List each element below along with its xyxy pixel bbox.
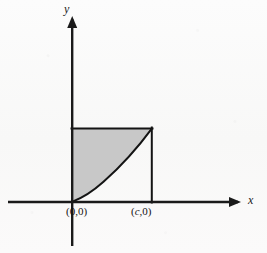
y-axis-arrowhead <box>67 16 77 28</box>
origin-paren-close: ) <box>83 205 87 217</box>
y-axis-label: y <box>64 3 69 15</box>
origin-point-label: (0,0) <box>66 206 87 217</box>
c-point-label: (c,0) <box>131 206 151 217</box>
c-paren-close: ) <box>148 205 152 217</box>
x-axis-label: x <box>248 194 253 206</box>
x-axis-arrowhead <box>229 197 241 207</box>
shaded-region <box>73 129 152 202</box>
figure-container: y x (0,0) (c,0) <box>0 0 267 253</box>
